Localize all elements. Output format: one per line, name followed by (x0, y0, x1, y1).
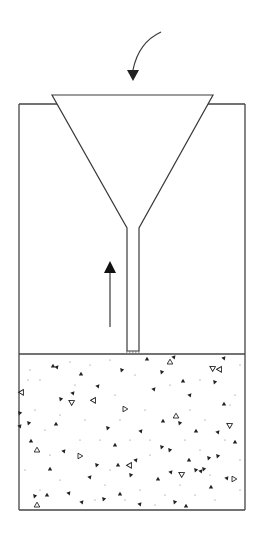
sand-dot (99, 439, 100, 440)
aggregate-stone-hollow (227, 421, 234, 428)
sand-dot (74, 384, 75, 385)
aggregate-stone (184, 504, 188, 508)
aggregate-stone (33, 493, 37, 498)
aggregate-stone (95, 383, 101, 389)
sand-dot (224, 439, 225, 440)
aggregate-stone (17, 423, 23, 429)
sand-dot (29, 369, 30, 370)
aggregate-stone (233, 440, 237, 444)
aggregate-stone (106, 425, 110, 430)
aggregate-stone (168, 447, 172, 452)
aggregate-stone-hollow (19, 388, 26, 395)
sand-dot (169, 384, 170, 385)
aggregate-stone (187, 458, 191, 462)
aggregate-stone (213, 379, 217, 384)
aggregate-stone (51, 364, 55, 368)
aggregate-stone-hollow (179, 470, 186, 477)
aggregate-stone (160, 444, 164, 449)
sand-dot (109, 469, 110, 470)
concrete-aggregate (17, 354, 240, 511)
pour-arrow-icon (127, 32, 161, 81)
aggregate-stone (194, 467, 198, 472)
aggregate-stone (168, 469, 174, 475)
sand-dot (109, 359, 110, 360)
sand-dot (59, 414, 60, 415)
sand-dot (134, 374, 135, 375)
aggregate-stone (138, 428, 144, 434)
aggregate-stone-hollow (210, 364, 217, 371)
sand-dot (184, 439, 185, 440)
aggregate-stone-hollow (78, 453, 83, 459)
aggregate-stone (95, 462, 99, 467)
aggregate-stone (216, 453, 220, 458)
aggregate-stone (133, 457, 139, 463)
sand-dot (189, 409, 190, 410)
aggregate-stone (187, 392, 193, 398)
sand-dot (234, 394, 235, 395)
sand-dot (84, 419, 85, 420)
aggregate-stone-hollow (173, 413, 179, 418)
aggregate-stone (207, 455, 211, 460)
sand-dot (64, 509, 65, 510)
aggregate-stone (27, 420, 31, 425)
aggregate-stone (79, 372, 83, 376)
sand-dot (179, 484, 180, 485)
aggregate-stone (222, 402, 226, 406)
aggregate-stone-hollow (217, 365, 224, 372)
sand-dot (24, 469, 25, 470)
sand-dot (59, 479, 60, 480)
aggregate-stone-hollow (34, 502, 40, 507)
aggregate-stone (70, 390, 76, 396)
aggregate-stone (120, 367, 124, 372)
sand-dot (129, 439, 130, 440)
diagram-canvas (0, 0, 266, 533)
sand-dot (124, 499, 125, 500)
sand-dot (139, 489, 140, 490)
sand-dot (27, 379, 28, 380)
aggregate-stone (137, 501, 143, 507)
aggregate-stone (102, 496, 106, 501)
aggregate-stone (29, 439, 33, 443)
sand-dot (214, 499, 215, 500)
aggregate-stone-hollow (123, 406, 128, 412)
aggregate-stone (160, 369, 164, 374)
sand-dot (104, 484, 105, 485)
sand-dot (34, 409, 35, 410)
aggregate-stone (161, 419, 165, 423)
aggregate-stone-hollow (127, 461, 134, 468)
aggregate-stone-hollow (34, 447, 40, 452)
sand-dot (149, 454, 150, 455)
aggregate-stone (209, 485, 213, 489)
sand-dot (209, 474, 210, 475)
aggregate-stone (224, 475, 230, 481)
aggregate-stone (116, 463, 120, 467)
sand-dot (69, 361, 70, 362)
sand-dot (204, 419, 205, 420)
aggregate-stone (215, 429, 221, 435)
sand-dot (94, 499, 95, 500)
sand-dot (39, 379, 40, 380)
aggregate-stone (48, 467, 52, 471)
aggregate-stone (156, 477, 160, 481)
aggregate-stone (61, 448, 67, 454)
aggregate-stone (66, 490, 72, 496)
aggregate-stone (145, 357, 149, 361)
aggregate-stone (178, 420, 182, 425)
funnel-and-tremie-pipe (52, 95, 213, 351)
aggregate-stone (59, 396, 63, 401)
aggregate-stone (202, 466, 206, 471)
sand-dot (44, 429, 45, 430)
sand-dot (239, 459, 240, 460)
aggregate-stone (221, 355, 227, 361)
sand-dot (229, 404, 230, 405)
aggregate-stone-hollow (69, 398, 76, 405)
aggregate-stone (54, 422, 58, 426)
sand-dot (154, 504, 155, 505)
aggregate-stone (151, 386, 157, 392)
sand-dot (39, 489, 40, 490)
aggregate-stone (194, 429, 198, 433)
aggregate-stone (113, 443, 117, 447)
sand-dot (49, 454, 50, 455)
aggregate-stone (87, 474, 93, 480)
sand-dot (239, 364, 240, 365)
